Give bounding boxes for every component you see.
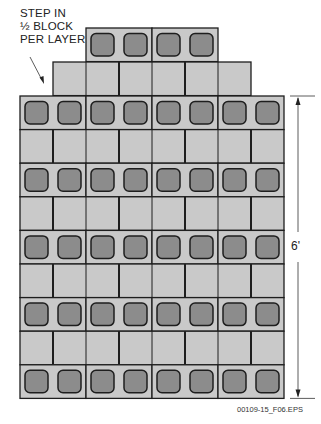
height-dimension-label: 6' [291,239,300,253]
block-core [25,102,48,125]
block-core [157,34,180,57]
block-core [124,169,147,192]
block-core [256,169,279,192]
block-core [58,102,81,125]
block-core [223,236,246,259]
block-core [58,370,81,393]
block-wall-diagram [0,0,321,424]
block-core [91,303,114,326]
block-core [256,303,279,326]
block-core [91,370,114,393]
block-core [157,236,180,259]
block-core [256,370,279,393]
block-core [157,102,180,125]
block-core [25,370,48,393]
block-core [190,102,213,125]
block-core [157,303,180,326]
block-core [58,303,81,326]
block-core [25,169,48,192]
block-core [190,236,213,259]
step-annotation-line-2: ½ BLOCK [20,20,86,33]
step-annotation-line-1: STEP IN [20,7,86,20]
block-core [190,34,213,57]
block-core [124,102,147,125]
block-core [157,169,180,192]
step-annotation: STEP IN ½ BLOCK PER LAYER [20,7,86,46]
block-core [256,236,279,259]
arrowhead-down-icon [296,389,301,397]
block-core [124,34,147,57]
block-core [91,236,114,259]
block-core [223,370,246,393]
block-core [157,370,180,393]
block-core [190,169,213,192]
block-core [190,303,213,326]
block-core [223,169,246,192]
annotation-arrow-line [30,57,42,80]
block-core [256,102,279,125]
block-core [58,236,81,259]
block-core [223,303,246,326]
block-core [25,303,48,326]
block-core [91,34,114,57]
block-core [124,236,147,259]
block-core [58,169,81,192]
block-core [190,370,213,393]
block-core [223,102,246,125]
block-core [25,236,48,259]
block-core [91,169,114,192]
block-core [124,370,147,393]
step-annotation-line-3: PER LAYER [20,33,86,46]
block-core [124,303,147,326]
block-core [91,102,114,125]
figure-id: 00109-15_F06.EPS [237,405,303,414]
arrowhead-up-icon [296,97,301,105]
